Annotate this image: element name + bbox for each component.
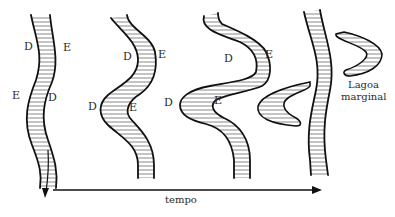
meander-diagram: D E E D D E D E D E D E Lagoa marginal t… (0, 0, 395, 217)
stage-2-label-e2: E (129, 101, 137, 114)
stage-3-label-d1: D (224, 52, 233, 65)
arrow-right-icon (312, 186, 322, 194)
stage-2-label-e1: E (158, 48, 166, 61)
oxbow-lake-left (258, 82, 310, 126)
oxbow-label-line1: Lagoa (348, 79, 379, 90)
flow-arrow-icon (42, 188, 49, 198)
stage-1-label-e1: E (63, 41, 71, 54)
oxbow-label-line2: marginal (341, 91, 386, 102)
stage-1-label-d2: D (48, 91, 57, 104)
time-axis-label: tempo (165, 194, 197, 205)
stage-2-channel (101, 15, 156, 178)
stage-2-label-d2: D (88, 100, 97, 113)
stage-3-channel (180, 13, 270, 178)
oxbow-lake-right (336, 32, 382, 76)
stage-1-label-e2: E (12, 89, 20, 102)
stage-3-label-e1: E (265, 48, 273, 61)
stage-3-label-d2: D (164, 96, 173, 109)
stage-3-label-e2: E (214, 94, 222, 107)
stage-4-channel (304, 10, 332, 175)
stage-2-label-d1: D (123, 50, 132, 63)
stage-1-label-d1: D (24, 40, 33, 53)
time-axis (53, 186, 322, 194)
